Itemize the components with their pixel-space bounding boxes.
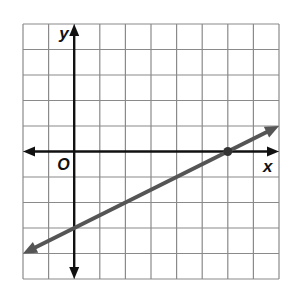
y-axis-arrow-up-icon: [69, 24, 79, 36]
y-axis-label: y: [58, 24, 70, 43]
x-axis-arrow-right-icon: [267, 147, 279, 157]
x-axis-arrow-left-icon: [23, 147, 35, 157]
x-axis-label: x: [262, 157, 274, 176]
y-axis-arrow-down-icon: [69, 267, 79, 279]
coordinate-plane: x y O: [0, 0, 292, 295]
origin-label: O: [57, 156, 70, 173]
x-intercept-point: [223, 147, 232, 156]
